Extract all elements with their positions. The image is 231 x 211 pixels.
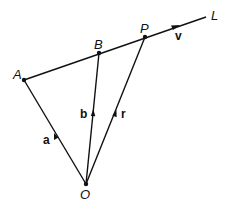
point-A bbox=[22, 78, 26, 82]
label-P: P bbox=[140, 21, 149, 36]
label-L: L bbox=[211, 8, 218, 23]
point-O bbox=[84, 182, 88, 186]
vector-b-line bbox=[86, 53, 99, 184]
vector-line-diagram: A B P O L v a b r bbox=[0, 0, 231, 211]
line-L bbox=[24, 17, 206, 80]
label-b: b bbox=[80, 107, 87, 121]
label-r: r bbox=[121, 107, 126, 121]
vector-a-line bbox=[24, 80, 86, 184]
diagram-svg: A B P O L v a b r bbox=[0, 0, 231, 211]
vector-r-line bbox=[86, 37, 145, 184]
b-arrow-icon bbox=[91, 109, 96, 116]
label-v: v bbox=[175, 29, 182, 43]
label-O: O bbox=[80, 187, 90, 202]
label-B: B bbox=[94, 37, 103, 52]
label-A: A bbox=[12, 67, 22, 82]
label-a: a bbox=[43, 133, 50, 147]
